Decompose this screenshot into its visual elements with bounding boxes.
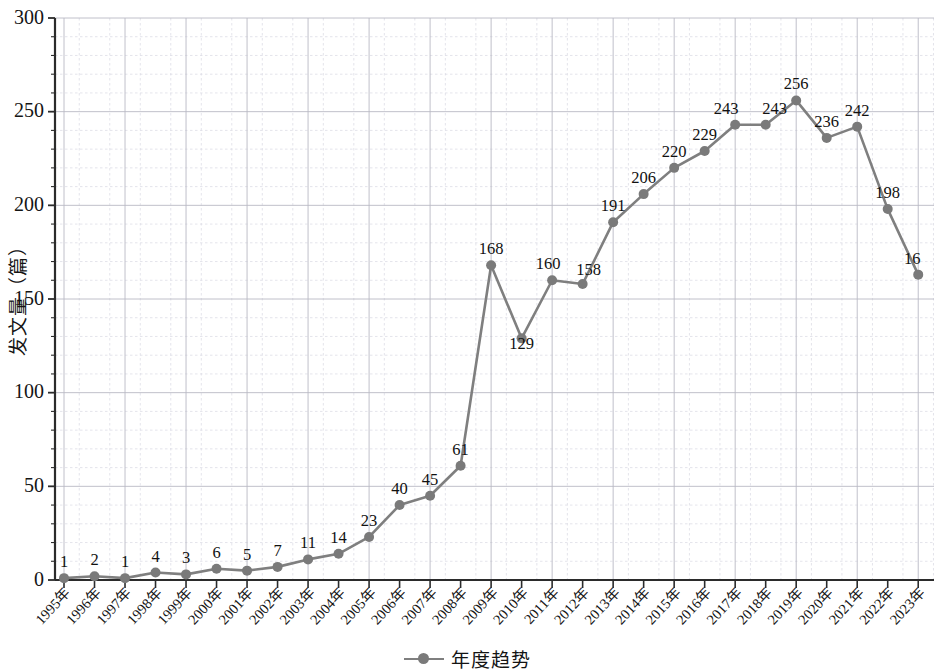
data-point-marker (212, 564, 222, 574)
data-point-marker (852, 122, 862, 132)
data-point-label: 7 (273, 541, 281, 560)
data-point-label: 129 (509, 334, 534, 353)
data-point-marker (547, 275, 557, 285)
data-point-marker (242, 566, 252, 576)
data-point-label: 243 (714, 99, 739, 118)
data-point-label: 40 (391, 479, 408, 498)
data-point-label: 2 (90, 550, 98, 569)
y-tick-label: 250 (14, 99, 44, 121)
data-point-label: 220 (662, 142, 687, 161)
data-point-label: 229 (692, 125, 717, 144)
y-tick-label: 150 (14, 287, 44, 309)
data-point-marker (761, 120, 771, 130)
data-point-label: 4 (151, 547, 159, 566)
data-point-label: 160 (536, 254, 561, 273)
data-point-marker (578, 279, 588, 289)
data-point-label: 242 (845, 101, 870, 120)
data-point-marker (883, 204, 893, 214)
data-point-label: 236 (814, 112, 839, 131)
data-point-marker (120, 573, 130, 583)
data-point-label: 11 (300, 533, 316, 552)
data-point-label: 1 (121, 552, 129, 571)
publication-trend-chart: 发文量（篇） 050100150200250300 1995年1996年1997… (0, 0, 934, 672)
data-point-marker (822, 133, 832, 143)
data-point-label: 23 (361, 511, 378, 530)
y-tick-label: 100 (14, 380, 44, 402)
y-tick-label: 200 (14, 193, 44, 215)
data-point-label: 3 (182, 548, 190, 567)
x-axis-tick-labels: 1995年1996年1997年1998年1999年2000年2001年2002年… (32, 585, 927, 627)
data-point-label: 61 (452, 440, 469, 459)
chart-plot-area: 050100150200250300 1995年1996年1997年1998年1… (0, 0, 934, 672)
data-point-label: 45 (422, 470, 439, 489)
data-point-marker (730, 120, 740, 130)
data-point-label: 16 (904, 249, 921, 268)
chart-legend: 年度趋势 (0, 645, 934, 672)
data-point-marker (669, 163, 679, 173)
data-point-label: 6 (212, 543, 220, 562)
y-tick-label: 0 (34, 568, 44, 590)
data-point-label: 5 (243, 545, 251, 564)
data-point-marker (273, 562, 283, 572)
data-point-marker (181, 569, 191, 579)
data-point-marker (791, 95, 801, 105)
data-point-marker (456, 461, 466, 471)
data-point-label: 243 (762, 99, 787, 118)
data-point-label: 191 (601, 196, 626, 215)
data-point-marker (395, 500, 405, 510)
data-point-marker (913, 270, 923, 280)
data-point-marker (639, 189, 649, 199)
data-point-label: 14 (330, 528, 347, 547)
data-point-marker (59, 573, 69, 583)
data-point-marker (334, 549, 344, 559)
x-axis-ticks (64, 580, 918, 588)
legend-label-annual-trend: 年度趋势 (451, 645, 531, 672)
data-point-marker (700, 146, 710, 156)
data-point-label: 206 (631, 168, 656, 187)
y-tick-label: 50 (24, 474, 44, 496)
data-point-marker (486, 260, 496, 270)
x-tick-label: 2023年 (886, 585, 927, 627)
data-point-marker (90, 571, 100, 581)
y-axis-tick-labels: 050100150200250300 (14, 6, 44, 590)
data-point-marker (608, 217, 618, 227)
data-point-label: 198 (875, 183, 900, 202)
legend-marker-icon (404, 653, 444, 665)
y-tick-label: 300 (14, 6, 44, 28)
data-point-marker (303, 554, 313, 564)
data-point-label: 256 (784, 74, 809, 93)
data-point-label: 158 (576, 260, 601, 279)
data-point-label: 168 (479, 239, 504, 258)
data-point-marker (151, 568, 161, 578)
data-point-label: 1 (60, 552, 68, 571)
data-point-marker (425, 491, 435, 501)
major-gridlines (55, 18, 934, 580)
data-point-marker (364, 532, 374, 542)
